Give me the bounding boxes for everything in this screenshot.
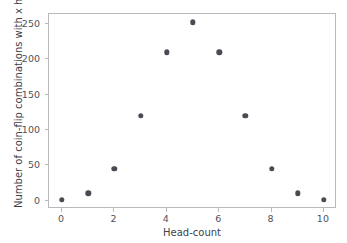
x-tick-label: 4 bbox=[146, 213, 186, 224]
y-tick-mark bbox=[45, 129, 49, 130]
data-point bbox=[190, 20, 195, 25]
x-tick-mark bbox=[61, 208, 62, 212]
y-tick-mark bbox=[45, 200, 49, 201]
data-point bbox=[243, 113, 248, 118]
data-point bbox=[295, 191, 300, 196]
x-tick-label: 8 bbox=[251, 213, 291, 224]
scatter-data-layer bbox=[49, 14, 335, 207]
y-tick-mark bbox=[45, 164, 49, 165]
y-tick-mark bbox=[45, 58, 49, 59]
data-point bbox=[269, 166, 274, 171]
x-tick-label: 10 bbox=[303, 213, 343, 224]
y-axis-label: Number of coin-flip combinations with x … bbox=[13, 13, 26, 208]
data-point bbox=[216, 49, 221, 54]
x-tick-label: 0 bbox=[41, 213, 81, 224]
data-point bbox=[164, 49, 169, 54]
x-tick-mark bbox=[218, 208, 219, 212]
x-tick-label: 6 bbox=[198, 213, 238, 224]
x-tick-mark bbox=[271, 208, 272, 212]
x-tick-mark bbox=[166, 208, 167, 212]
data-point bbox=[86, 191, 91, 196]
figure-canvas: 0246810 050100150200250 Head-count Numbe… bbox=[0, 0, 347, 243]
plot-axes-frame bbox=[48, 13, 336, 208]
y-tick-mark bbox=[45, 94, 49, 95]
x-axis-label: Head-count bbox=[48, 227, 336, 238]
data-point bbox=[321, 197, 326, 202]
x-tick-mark bbox=[323, 208, 324, 212]
data-point bbox=[59, 197, 64, 202]
data-point bbox=[138, 113, 143, 118]
x-tick-label: 2 bbox=[93, 213, 133, 224]
x-tick-mark bbox=[113, 208, 114, 212]
y-tick-mark bbox=[45, 23, 49, 24]
data-point bbox=[112, 166, 117, 171]
